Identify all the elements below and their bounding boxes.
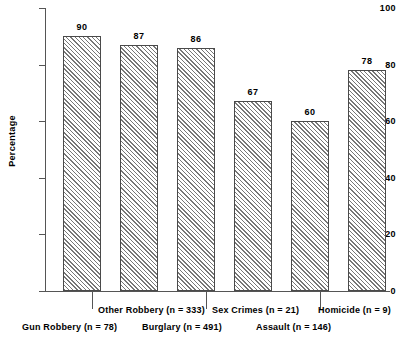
bar-chart: 100 80 60 40 20 0 Percentage 90 87 86 67…	[0, 0, 396, 345]
cat-label-other-robbery: Other Robbery (n = 333)	[98, 305, 205, 316]
cat-label-burglary: Burglary (n = 491)	[142, 322, 222, 333]
bar-value-homicide: 78	[348, 56, 386, 66]
bar-gun-robbery	[63, 36, 101, 291]
cat-leader-sex-crimes	[206, 297, 207, 309]
cat-label-gun-robbery: Gun Robbery (n = 78)	[22, 322, 117, 333]
bar-value-burglary: 86	[177, 34, 215, 44]
bar-homicide	[348, 70, 386, 291]
bar-value-other-robbery: 87	[120, 31, 158, 41]
bar-value-gun-robbery: 90	[63, 22, 101, 32]
bar-sex-crimes	[234, 101, 272, 291]
bar-value-assault: 60	[291, 107, 329, 117]
bar-other-robbery	[120, 45, 158, 291]
cat-label-sex-crimes: Sex Crimes (n = 21)	[212, 305, 299, 316]
x-axis-line	[45, 291, 390, 292]
bar-assault	[291, 121, 329, 291]
cat-label-assault: Assault (n = 146)	[256, 322, 331, 333]
cat-leader-other-robbery	[92, 297, 93, 309]
bar-burglary	[177, 48, 215, 291]
cat-label-homicide: Homicide (n = 9)	[318, 305, 391, 316]
bar-value-sex-crimes: 67	[234, 87, 272, 97]
plot-area: 90 87 86 67 60 78	[45, 8, 390, 291]
y-axis-title: Percentage	[7, 101, 17, 181]
